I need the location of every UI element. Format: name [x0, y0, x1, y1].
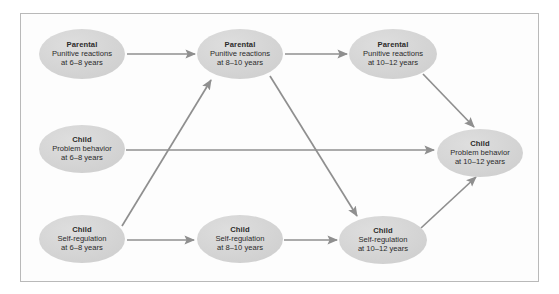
node-child-selfreg-8-10 [197, 215, 283, 263]
arrow-parental1012-to-problem1012 [423, 74, 474, 127]
arrow-selfreg68-to-parental810 [122, 80, 211, 226]
arrow-layer [122, 54, 476, 240]
arrow-parental810-to-selfreg1012 [270, 76, 357, 216]
figure-root: ParentalPunitive reactionsat 6–8 yearsPa… [0, 0, 559, 294]
node-child-problem-6-8 [39, 125, 125, 173]
arrow-selfreg1012-to-problem1012 [421, 177, 476, 228]
node-parental-punitive-6-8 [39, 29, 125, 79]
node-child-problem-10-12 [437, 129, 523, 177]
node-layer [39, 29, 523, 264]
node-parental-punitive-10-12 [349, 29, 437, 79]
node-child-selfreg-6-8 [39, 215, 125, 263]
node-parental-punitive-8-10 [197, 29, 283, 79]
node-child-selfreg-10-12 [339, 216, 427, 264]
path-diagram [0, 0, 559, 294]
